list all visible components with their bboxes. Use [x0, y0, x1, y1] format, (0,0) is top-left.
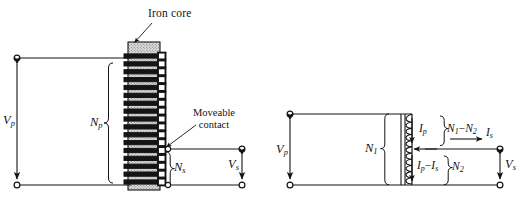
winding-tap: [158, 92, 166, 99]
figure-background: [0, 0, 523, 213]
primary-winding: [124, 53, 166, 186]
n1-subscript: 1: [373, 146, 377, 156]
winding-tap: [158, 131, 166, 138]
winding-tap: [158, 68, 166, 75]
n1-minus-n2-second-subscript: 2: [473, 127, 477, 136]
schematic-primary-terminal-bottom[interactable]: [287, 182, 293, 188]
moveable-contact-label: Moveable contact: [184, 107, 244, 130]
primary-voltage-label: Vp: [3, 113, 15, 128]
moveable-contact-line-1: Moveable: [193, 107, 235, 118]
n1-minus-n2-first-symbol: N: [447, 122, 455, 134]
secondary-terminal-top[interactable]: [239, 146, 245, 152]
moveable-contact-line-2: contact: [199, 119, 229, 130]
winding-tap: [158, 108, 166, 115]
winding-tap: [158, 100, 166, 107]
common-current-second-subscript: s: [435, 164, 438, 173]
n2-subscript: 2: [460, 165, 464, 174]
secondary-voltage-symbol: V: [228, 157, 236, 171]
primary-turns-label: Np: [90, 115, 103, 130]
winding-tap: [158, 76, 166, 83]
schematic-secondary-voltage-symbol: V: [505, 157, 513, 171]
schematic-secondary-voltage-label: Vs: [505, 157, 516, 172]
n1-minus-n2-label: N1−N2: [447, 122, 477, 136]
winding-tap: [158, 84, 166, 91]
primary-terminal-bottom[interactable]: [14, 182, 20, 188]
autotransformer-figure: [0, 0, 523, 213]
winding-tap: [158, 116, 166, 123]
common-current-label: Ip−Is: [417, 159, 438, 173]
n1-label: N1: [365, 141, 378, 156]
winding-tap: [158, 139, 166, 146]
schematic-primary-terminal-top[interactable]: [287, 111, 293, 117]
primary-current-label: Ip: [419, 122, 427, 136]
schematic-primary-voltage-symbol: V: [276, 142, 284, 156]
schematic-secondary-voltage-subscript: s: [513, 162, 516, 172]
winding-tap: [158, 163, 166, 170]
secondary-current-label: Is: [486, 126, 493, 140]
n1-minus-n2-second-symbol: N: [465, 122, 473, 134]
secondary-turns-subscript: s: [182, 165, 185, 175]
secondary-voltage-subscript: s: [236, 162, 239, 172]
winding-tap: [158, 60, 166, 67]
winding-tap: [158, 171, 166, 178]
winding-tap: [158, 147, 166, 154]
primary-turns-subscript: p: [98, 120, 102, 130]
primary-voltage-subscript: p: [11, 118, 15, 128]
schematic-primary-voltage-label: Vp: [276, 142, 288, 157]
primary-current-subscript: p: [423, 127, 427, 136]
iron-core-label: Iron core: [148, 7, 192, 19]
secondary-current-subscript: s: [490, 131, 493, 140]
schematic-secondary-terminal-top[interactable]: [497, 146, 503, 152]
n2-symbol: N: [452, 160, 460, 172]
winding-tap: [158, 179, 166, 186]
moveable-contact-node[interactable]: [165, 146, 170, 151]
secondary-voltage-label: Vs: [228, 157, 239, 172]
schematic-primary-voltage-subscript: p: [284, 147, 288, 157]
winding-tap: [158, 53, 166, 60]
secondary-turns-label: Ns: [174, 160, 186, 175]
secondary-tap-node[interactable]: [165, 182, 170, 187]
primary-terminal-top[interactable]: [14, 55, 20, 61]
n2-label: N2: [452, 160, 464, 174]
winding-tap: [158, 123, 166, 130]
secondary-terminal-bottom[interactable]: [239, 182, 245, 188]
winding-tap: [158, 155, 166, 162]
primary-voltage-symbol: V: [3, 113, 11, 127]
schematic-secondary-terminal-bottom[interactable]: [497, 182, 503, 188]
